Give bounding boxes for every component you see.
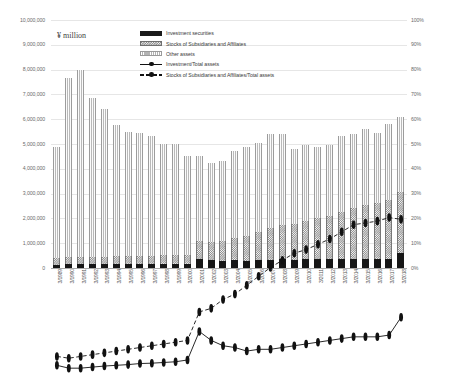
bar-column[interactable]	[229, 20, 241, 268]
bar-column[interactable]	[122, 20, 134, 268]
bar-column[interactable]	[158, 20, 170, 268]
segment-investment-securities	[208, 260, 215, 268]
stacked-bar[interactable]	[53, 147, 60, 269]
y-axis-tick-left: 4,000,000	[0, 165, 45, 171]
bar-column[interactable]	[241, 20, 253, 268]
x-axis-tick: 3/2018	[395, 268, 407, 309]
stacked-bar[interactable]	[172, 144, 179, 268]
stacked-bar[interactable]	[65, 78, 72, 268]
segment-stocks-subsidiaries	[148, 256, 155, 265]
stacked-bar[interactable]	[350, 134, 357, 268]
stacked-bar[interactable]	[160, 144, 167, 268]
x-axis-tick: 3/1996	[134, 268, 146, 309]
x-axis-tick: 3/2008	[276, 268, 288, 309]
bar-column[interactable]	[383, 20, 395, 268]
bar-column[interactable]	[347, 20, 359, 268]
segment-investment-securities	[302, 259, 309, 268]
stacked-bar[interactable]	[374, 133, 381, 268]
y-axis-tick-right: 10%	[411, 240, 421, 246]
stacked-bar[interactable]	[196, 156, 203, 268]
x-axis-tick: 3/2011	[312, 268, 324, 309]
stacked-bar[interactable]	[302, 145, 309, 268]
stacked-bar[interactable]	[208, 163, 215, 268]
stacked-bar[interactable]	[231, 151, 238, 268]
bar-column[interactable]	[359, 20, 371, 268]
y-axis-tick-left: 0	[0, 265, 45, 271]
stacked-bar[interactable]	[279, 134, 286, 268]
x-axis-tick: 3/2013	[336, 268, 348, 309]
y-axis-tick-right: 30%	[411, 190, 421, 196]
segment-investment-securities	[326, 259, 333, 268]
bar-column[interactable]	[181, 20, 193, 268]
stacked-bar[interactable]	[326, 145, 333, 268]
data-point-marker	[399, 313, 403, 322]
bar-column[interactable]	[205, 20, 217, 268]
segment-investment-securities	[219, 261, 226, 268]
y-axis-tick-left: 10,000,000	[0, 17, 45, 23]
y-axis-tick-right: 60%	[411, 116, 421, 122]
segment-stocks-subsidiaries	[113, 256, 120, 264]
x-axis-tick: 3/1995	[122, 268, 134, 309]
bar-column[interactable]	[110, 20, 122, 268]
bar-column[interactable]	[134, 20, 146, 268]
stacked-bar[interactable]	[255, 143, 262, 268]
x-axis-tick: 3/2004	[229, 268, 241, 309]
bar-column[interactable]	[336, 20, 348, 268]
x-axis-tick: 3/2007	[264, 268, 276, 309]
stacked-bar[interactable]	[267, 134, 274, 268]
bar-column[interactable]	[63, 20, 75, 268]
segment-other-assets	[89, 98, 96, 257]
stacked-bar[interactable]	[184, 156, 191, 268]
stacked-bar[interactable]	[338, 136, 345, 268]
bar-column[interactable]	[276, 20, 288, 268]
bar-column[interactable]	[193, 20, 205, 268]
bar-column[interactable]	[395, 20, 407, 268]
bar-column[interactable]	[253, 20, 265, 268]
data-point-marker	[79, 364, 83, 373]
segment-stocks-subsidiaries	[397, 192, 404, 253]
segment-investment-securities	[291, 260, 298, 268]
stacked-bar[interactable]	[291, 149, 298, 268]
bar-column[interactable]	[371, 20, 383, 268]
bar-column[interactable]	[217, 20, 229, 268]
stacked-bar[interactable]	[136, 133, 143, 268]
segment-stocks-subsidiaries	[77, 257, 84, 264]
bar-column[interactable]	[288, 20, 300, 268]
segment-stocks-subsidiaries	[243, 236, 250, 261]
x-axis-tick: 3/2001	[193, 268, 205, 309]
data-point-marker	[162, 340, 166, 349]
bar-column[interactable]	[75, 20, 87, 268]
stacked-bar[interactable]	[101, 109, 108, 268]
bar-column[interactable]	[170, 20, 182, 268]
bar-column[interactable]	[300, 20, 312, 268]
stacked-bar[interactable]	[89, 98, 96, 268]
stacked-bar[interactable]	[219, 161, 226, 268]
bar-column[interactable]	[98, 20, 110, 268]
segment-stocks-subsidiaries	[208, 242, 215, 260]
bar-column[interactable]	[324, 20, 336, 268]
segment-other-assets	[267, 134, 274, 227]
bar-column[interactable]	[51, 20, 63, 268]
bar-column[interactable]	[264, 20, 276, 268]
segment-investment-securities	[279, 259, 286, 268]
stacked-bar[interactable]	[397, 117, 404, 268]
stacked-bar[interactable]	[314, 147, 321, 268]
segment-stocks-subsidiaries	[136, 256, 143, 264]
bar-column[interactable]	[87, 20, 99, 268]
segment-stocks-subsidiaries	[314, 218, 321, 259]
y-axis-tick-left: 6,000,000	[0, 116, 45, 122]
stacked-bar[interactable]	[125, 132, 132, 268]
segment-stocks-subsidiaries	[196, 241, 203, 258]
bar-column[interactable]	[312, 20, 324, 268]
segment-other-assets	[219, 161, 226, 241]
stacked-bar[interactable]	[77, 70, 84, 268]
bar-column[interactable]	[146, 20, 158, 268]
stacked-bar[interactable]	[385, 124, 392, 268]
stacked-bar[interactable]	[148, 136, 155, 268]
segment-stocks-subsidiaries	[362, 205, 369, 258]
stacked-bar[interactable]	[113, 125, 120, 268]
stacked-bar[interactable]	[362, 129, 369, 268]
x-axis-tick: 3/1990	[63, 268, 75, 309]
stacked-bar[interactable]	[243, 147, 250, 269]
data-point-marker	[375, 333, 379, 342]
